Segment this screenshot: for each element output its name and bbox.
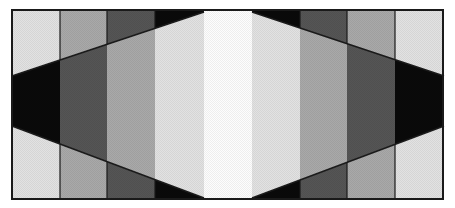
halftone-texture bbox=[12, 10, 443, 199]
illusion-figure bbox=[0, 0, 455, 208]
dither-overlay bbox=[12, 10, 443, 199]
